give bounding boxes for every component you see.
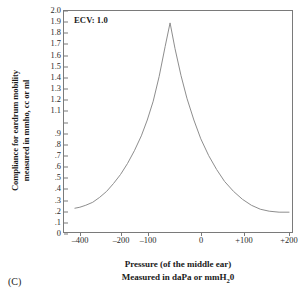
panel-caption: (C) (8, 276, 21, 287)
y-tick-label: 1.1 (51, 107, 61, 115)
x-axis-label: Pressure (of the middle ear) Measured in… (63, 258, 293, 287)
y-tick-label: 2.0 (51, 7, 61, 15)
x-tick-label: –400 (72, 237, 89, 245)
y-tick-label: 1.7 (51, 40, 61, 48)
x-axis-label-line2: Measured in daPa or mmH20 (63, 271, 293, 287)
y-tick-label: 1.4 (51, 74, 61, 82)
y-axis-label-line2: measured in mmho, cc or ml (20, 31, 31, 231)
tympanogram-figure: Compliance for eardrum mobility measured… (0, 0, 304, 297)
x-tick-label: +100 (235, 237, 252, 245)
x-axis-label-line1: Pressure (of the middle ear) (63, 258, 293, 271)
x-tick-label: –100 (140, 237, 157, 245)
y-tick-label: .6 (55, 163, 61, 171)
y-tick-label: .5 (55, 174, 61, 182)
y-tick-label: 1.3 (51, 85, 61, 93)
x-tick-label: –200 (113, 237, 130, 245)
y-axis-label: Compliance for eardrum mobility measured… (10, 31, 31, 231)
plot-area: ECV: 1.0 2.01.91.81.71.61.51.41.31.21.1.… (63, 10, 293, 233)
y-tick-label: .7 (55, 152, 61, 160)
y-tick-label: 1.6 (51, 51, 61, 59)
tympanogram-curve (64, 11, 292, 232)
y-tick-label: 0 (57, 230, 61, 238)
y-tick-label: .9 (55, 129, 61, 137)
y-axis-label-line1: Compliance for eardrum mobility (10, 31, 21, 231)
y-tick-label: 1.9 (51, 18, 61, 26)
y-tick-label: 1.5 (51, 63, 61, 71)
y-tick-label: .1 (55, 219, 61, 227)
x-tick-label: +200 (280, 237, 297, 245)
y-tick-mark (64, 234, 68, 235)
y-tick-label: .3 (55, 196, 61, 204)
x-axis-label-line2-post: 0 (230, 272, 235, 282)
y-tick-label: .8 (55, 141, 61, 149)
y-tick-label: .4 (55, 185, 61, 193)
x-tick-label: 0 (199, 237, 203, 245)
y-tick-label: 1.8 (51, 29, 61, 37)
curve-path (75, 23, 289, 212)
x-axis-label-line2-pre: Measured in daPa or mmH (122, 272, 227, 282)
y-tick-label: .2 (55, 207, 61, 215)
y-tick-label: 1.2 (51, 96, 61, 104)
